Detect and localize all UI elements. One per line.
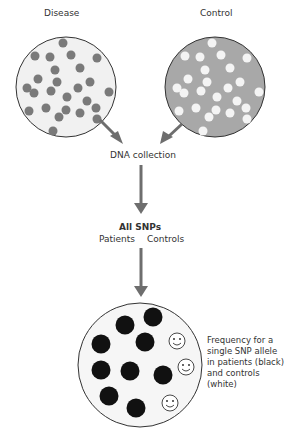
arrow-dna-to-snps [134, 165, 148, 214]
gwas-diagram [0, 0, 297, 437]
smiley-icon [162, 395, 178, 411]
arrow-disease-to-dna [100, 120, 123, 144]
arrow-control-to-dna [160, 124, 182, 144]
smiley-icon [178, 359, 194, 375]
smiley-icon [169, 333, 185, 349]
arrow-snps-to-result [134, 248, 148, 297]
control-population-circle [165, 37, 265, 137]
allele-frequency-circle [78, 303, 202, 427]
